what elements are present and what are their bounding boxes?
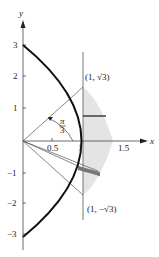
- y-tick-label-2: 2: [13, 71, 18, 81]
- point-label-lower: (1, −√3): [87, 204, 117, 214]
- x-tick-label-1: 1: [78, 143, 83, 153]
- parabola-diagram: y x 3 2 1 −1 −2 −3 0.5 1 1.5 (1, √3) (1,…: [0, 0, 159, 257]
- angle-arrow: [48, 117, 53, 121]
- x-tick-label-0.5: 0.5: [47, 143, 59, 153]
- y-axis-arrow: [21, 20, 26, 28]
- y-tick-label-neg1: −1: [7, 168, 17, 178]
- ray-to-upper-point: [23, 87, 83, 141]
- y-tick-label-3: 3: [13, 40, 18, 50]
- point-label-upper: (1, √3): [85, 72, 109, 82]
- y-axis-label: y: [18, 8, 23, 18]
- angle-label: π 3: [59, 116, 66, 135]
- y-tick-label-1: 1: [13, 103, 18, 113]
- x-axis-label: x: [149, 136, 154, 146]
- angle-label-denominator: 3: [60, 125, 65, 135]
- x-axis-arrow: [140, 139, 148, 144]
- y-tick-label-neg3: −3: [7, 229, 17, 239]
- x-tick-label-1.5: 1.5: [118, 143, 130, 153]
- y-tick-label-neg2: −2: [7, 198, 17, 208]
